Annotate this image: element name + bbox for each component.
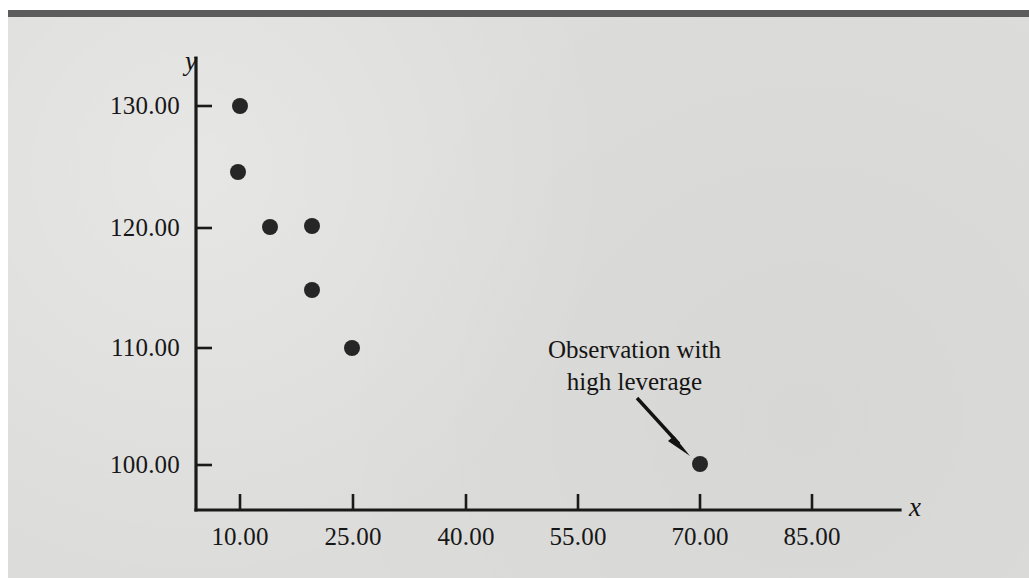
- annotation-arrow: [637, 398, 690, 456]
- annotation-line-2: high leverage: [548, 366, 721, 398]
- scatter-plot: 130.00 120.00 110.00 100.00 10.00 25.00 …: [0, 0, 1029, 578]
- x-tick-label: 55.00: [549, 523, 606, 551]
- arrow-head: [668, 436, 690, 456]
- annotation-text: Observation with high leverage: [548, 334, 721, 398]
- axes-group: [196, 58, 900, 510]
- plot-svg: [0, 0, 1029, 578]
- y-tick-label: 110.00: [58, 334, 180, 362]
- x-tick-label: 70.00: [671, 523, 728, 551]
- x-tick-label: 85.00: [783, 523, 840, 551]
- data-point: [344, 340, 360, 356]
- data-point: [692, 456, 708, 472]
- data-point: [304, 218, 320, 234]
- y-tick-label: 130.00: [58, 92, 180, 120]
- x-tick-marks: [240, 494, 812, 510]
- data-points-group: [230, 98, 708, 472]
- y-tick-marks: [196, 106, 212, 465]
- data-point: [304, 282, 320, 298]
- x-tick-label: 40.00: [437, 523, 494, 551]
- y-tick-label: 100.00: [58, 451, 180, 479]
- data-point: [262, 219, 278, 235]
- annotation-line-1: Observation with: [548, 334, 721, 366]
- x-tick-label: 25.00: [324, 523, 381, 551]
- x-tick-label: 10.00: [211, 523, 268, 551]
- x-axis-label: x: [909, 492, 921, 523]
- y-tick-label: 120.00: [58, 214, 180, 242]
- data-point: [232, 98, 248, 114]
- data-point: [230, 164, 246, 180]
- figure-container: 130.00 120.00 110.00 100.00 10.00 25.00 …: [0, 0, 1029, 578]
- y-axis-label: y: [185, 46, 197, 77]
